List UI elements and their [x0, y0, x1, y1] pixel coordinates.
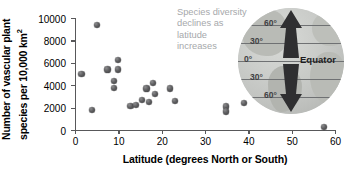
y-tick-label-10000: 10000	[38, 13, 66, 24]
data-point	[89, 107, 95, 113]
y-tick-label-8000: 8000	[44, 35, 66, 46]
data-point	[133, 102, 139, 108]
data-point	[223, 108, 229, 114]
y-axis-title-wrap: Number of vascular plant species per 10,…	[0, 0, 36, 140]
x-tick-40: 40	[248, 130, 249, 134]
data-point	[150, 80, 156, 86]
data-point	[167, 85, 173, 91]
globe-inset: 60° 30° 0° 30° 60° Equator	[238, 8, 344, 114]
x-axis-title: Latitude (degrees North or South)	[75, 153, 335, 165]
x-tick-label-50: 50	[287, 136, 298, 147]
x-tick-label-30: 30	[200, 136, 211, 147]
y-tick-label-4000: 4000	[44, 80, 66, 91]
x-tick-50: 50	[292, 130, 293, 134]
data-point	[111, 85, 117, 91]
y-tick-label-0: 0	[60, 125, 66, 136]
y-tick-2000: 2000	[71, 108, 75, 109]
data-point	[78, 71, 84, 77]
y-tick-label-2000: 2000	[44, 103, 66, 114]
x-tick-label-20: 20	[157, 136, 168, 147]
x-tick-label-60: 60	[330, 136, 341, 147]
y-tick-4000: 4000	[71, 85, 75, 86]
data-point	[139, 97, 145, 103]
data-point	[172, 98, 178, 104]
data-point	[152, 91, 158, 97]
y-axis-title: Number of vascular plant species per 10,…	[0, 0, 30, 140]
data-point	[111, 78, 117, 84]
x-tick-0: 0	[75, 130, 76, 134]
x-tick-label-0: 0	[73, 136, 79, 147]
x-tick-30: 30	[205, 130, 206, 134]
data-point	[146, 99, 152, 105]
y-tick-8000: 8000	[71, 40, 75, 41]
x-tick-10: 10	[118, 130, 119, 134]
x-tick-label-40: 40	[243, 136, 254, 147]
y-axis-title-line1: Number of vascular plant	[0, 0, 13, 140]
x-tick-label-10: 10	[113, 136, 124, 147]
y-axis-line	[75, 18, 76, 130]
y-tick-6000: 6000	[71, 63, 75, 64]
y-tick-label-6000: 6000	[44, 58, 66, 69]
y-axis-title-exponent: 2	[15, 29, 24, 33]
data-point	[94, 22, 100, 28]
y-axis-title-line2: species per 10,000 km2	[13, 0, 30, 140]
x-tick-20: 20	[162, 130, 163, 134]
figure-container: Number of vascular plant species per 10,…	[0, 0, 350, 178]
data-point	[104, 66, 110, 72]
data-point	[143, 85, 149, 91]
data-point	[115, 57, 121, 63]
x-tick-60: 60	[335, 130, 336, 134]
data-point	[115, 66, 121, 72]
latitude-double-arrow-icon	[238, 8, 344, 114]
y-axis-title-text: species per 10,000 km	[17, 33, 29, 140]
y-tick-10000: 10000	[71, 18, 75, 19]
